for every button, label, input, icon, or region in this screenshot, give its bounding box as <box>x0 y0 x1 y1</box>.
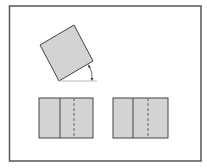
outer-frame <box>10 6 202 161</box>
panel-right-rect <box>113 98 168 138</box>
panel-left-rect <box>39 98 93 138</box>
panel-right <box>113 98 168 138</box>
panel-left <box>39 98 93 138</box>
diagram-canvas <box>0 0 207 168</box>
